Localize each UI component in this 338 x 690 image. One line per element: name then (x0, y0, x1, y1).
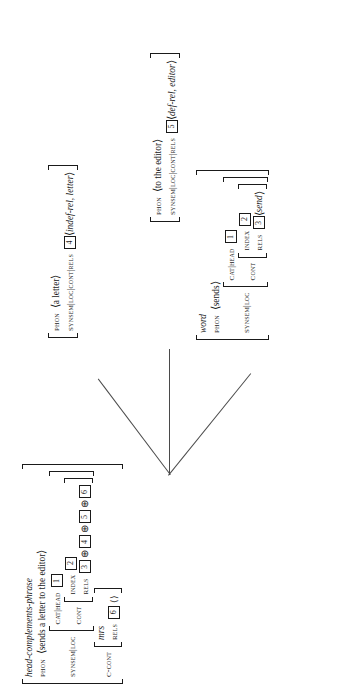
sends-synsem-row: SYNSEM|LOC CAT|HEAD 1 CONT (223, 177, 268, 333)
angle-close-icon: ⟩ (210, 281, 221, 285)
sends-synsem-avm: CAT|HEAD 1 CONT (223, 177, 268, 287)
root-rels-tag-5: 5 (79, 510, 91, 523)
a-letter-rels-value: indef-rel, letter (64, 176, 76, 232)
root-cat-attr: CAT|HEAD (50, 592, 64, 624)
sends-rels-row: RELS 3 ⟨ send ⟩ (252, 191, 266, 250)
oplus-icon-1: ⊕ (79, 548, 91, 560)
to-the-editor-phon-row: PHON ⟨ to the editor ⟩ (151, 60, 165, 215)
sends-cont-avm: INDEX 2 RELS 3 ⟨ (238, 184, 268, 257)
to-the-editor-synsem-row: SYNSEM|LOC|CONT|RELS 5 ⟨ def-rel, editor… (165, 60, 179, 215)
root-left-bracket (22, 679, 123, 684)
root-rels-attr: RELS (78, 578, 92, 594)
root-cat-row: CAT|HEAD 1 (50, 478, 64, 624)
a-letter-rels-tag: 4 (64, 236, 76, 249)
angle-close-icon: ⟩ (36, 550, 47, 554)
angle-close-icon: ⟩ (64, 172, 75, 176)
a-letter-phon-attr: PHON (49, 313, 63, 331)
sends-phon-row: PHON ⟨ sends ⟩ (209, 177, 223, 333)
angle-close-icon: ⟩ (50, 275, 61, 279)
sends-rels-attr: RELS (252, 234, 266, 250)
hpsg-avm-tree-figure: head-complements-phrase PHON ⟨ sends a l… (0, 0, 338, 690)
root-synsem-row: SYNSEM|LOC CAT|HEAD 1 CONT (49, 471, 94, 677)
root-synsem-attr: SYNSEM|LOC (65, 636, 79, 677)
sends-rels-value: send (253, 195, 265, 212)
root-right-bracket (22, 464, 123, 469)
oplus-icon-2: ⊕ (79, 523, 91, 535)
daughter-node-a-letter: PHON ⟨ a letter ⟩ SYNSEM|LOC|CONT|RELS 4… (48, 165, 78, 338)
root-ccont-rels-row: RELS 6 ⟨⟩ (107, 595, 121, 640)
angle-open-icon: ⟨ (50, 304, 61, 308)
a-letter-left-bracket (48, 333, 78, 338)
root-index-tag: 2 (65, 557, 77, 570)
sends-cat-attr: CAT|HEAD (224, 248, 238, 280)
root-ccont-type-label: mrs (95, 626, 107, 640)
oplus-icon-3: ⊕ (79, 498, 91, 510)
sends-left-bracket (196, 335, 269, 340)
root-cont-avm: INDEX 2 RELS 3 ⊕ (64, 478, 94, 601)
root-phon-row: PHON ⟨ sends a letter to the editor ⟩ (35, 471, 49, 677)
root-cont-attr: CONT (71, 607, 85, 625)
angle-open-icon: ⟨ (210, 306, 221, 310)
root-synsem-left-bracket (49, 626, 94, 631)
angle-close-icon: ⟩ (152, 139, 163, 143)
root-cont-right-bracket (64, 478, 94, 483)
angle-open-icon: ⟨ (166, 116, 177, 120)
tree-edge-middle (169, 349, 170, 475)
sends-synsem-attr: SYNSEM|LOC (239, 292, 253, 333)
to-the-editor-phon-attr: PHON (151, 197, 165, 215)
sends-index-attr: INDEX (239, 231, 253, 251)
to-the-editor-synsem-attr: SYNSEM|LOC|CONT|RELS (165, 138, 179, 215)
sends-index-row: INDEX 2 (239, 191, 253, 250)
sends-phon-value: sends (210, 285, 222, 306)
sends-cont-row: CONT INDEX 2 (238, 184, 268, 280)
root-cont-left-bracket (64, 597, 94, 602)
a-letter-right-bracket (48, 165, 78, 170)
sends-type-row: word (197, 177, 209, 333)
root-ccont-attr: C-CONT (101, 652, 115, 677)
sends-type-label: word (197, 314, 209, 333)
to-the-editor-rels-value: def-rel, editor (166, 64, 178, 116)
angle-close-icon: ⟩ (166, 60, 177, 64)
root-rels-tag-6: 6 (79, 485, 91, 498)
sends-phon-attr: PHON (209, 315, 223, 333)
to-the-editor-phon-value: to the editor (152, 143, 164, 188)
root-synsem-avm: CAT|HEAD 1 CONT (49, 471, 94, 631)
root-cat-head-tag: 1 (51, 574, 63, 587)
sends-cat-head-tag: 1 (225, 230, 237, 243)
sends-synsem-right-bracket (223, 177, 268, 182)
root-ccont-rels-tag: 6 (108, 606, 120, 619)
root-rels-tag-4: 4 (79, 535, 91, 548)
a-letter-phon-row: PHON ⟨ a letter ⟩ (49, 172, 63, 331)
tree-edge-left (168, 373, 251, 475)
root-node-head-complements-phrase: head-complements-phrase PHON ⟨ sends a l… (22, 464, 123, 684)
root-rels-tag-3: 3 (79, 560, 91, 573)
sends-cont-right-bracket (238, 184, 268, 189)
to-the-editor-right-bracket (150, 53, 180, 58)
tree-edge-right (98, 379, 171, 475)
root-type-label: head-complements-phrase (23, 578, 35, 677)
root-index-attr: INDEX (65, 575, 79, 595)
root-index-row: INDEX 2 (65, 485, 79, 594)
a-letter-synsem-attr: SYNSEM|LOC|CONT|RELS (63, 254, 77, 331)
sends-index-tag: 2 (239, 213, 251, 226)
root-ccont-rels-attr: RELS (107, 624, 121, 640)
a-letter-synsem-row: SYNSEM|LOC|CONT|RELS 4 ⟨ indef-rel, lett… (63, 172, 77, 331)
root-type-row: head-complements-phrase (23, 471, 35, 677)
angle-close-icon: ⟩ (254, 191, 265, 195)
daughter-node-to-the-editor: PHON ⟨ to the editor ⟩ SYNSEM|LOC|CONT|R… (150, 53, 180, 222)
root-phon-value: sends a letter to the editor (36, 554, 48, 651)
sends-cont-left-bracket (238, 253, 268, 258)
sends-rels-tag: 3 (253, 216, 265, 229)
daughter-node-sends: word PHON ⟨ sends ⟩ SYNSEM|LOC (196, 170, 269, 340)
figure-rotator: head-complements-phrase PHON ⟨ sends a l… (0, 0, 338, 690)
a-letter-phon-value: a letter (50, 279, 62, 305)
angle-open-icon: ⟨ (64, 232, 75, 236)
root-ccont-avm: mrs RELS 6 ⟨⟩ (94, 588, 122, 647)
to-the-editor-rels-tag: 5 (166, 120, 178, 133)
sends-synsem-left-bracket (223, 282, 268, 287)
root-ccont-right-bracket (94, 588, 122, 593)
root-synsem-right-bracket (49, 471, 94, 476)
root-ccont-rels-value: ⟨⟩ (108, 595, 120, 603)
root-phon-attr: PHON (35, 659, 49, 677)
root-ccont-type-row: mrs (95, 595, 107, 640)
